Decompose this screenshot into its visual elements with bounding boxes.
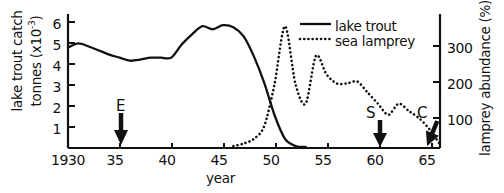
plot-area xyxy=(0,0,504,193)
chart-figure: lake trout catch tonnes (x10-3) lamprey … xyxy=(0,0,504,193)
series-line-lake-trout xyxy=(68,25,306,147)
annotation-arrow-S xyxy=(373,120,387,147)
axes xyxy=(68,14,440,148)
annotation-arrow-E xyxy=(114,113,128,145)
